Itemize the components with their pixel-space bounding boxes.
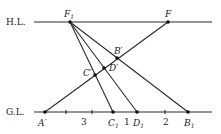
label-b-prime: B′ xyxy=(113,46,123,56)
point-c-prime xyxy=(93,73,97,77)
perspective-diagram: H.L. G.L. F1 F B′ D′ C′ A′ C1 D1 B1 3 1 … xyxy=(0,0,221,134)
label-f: F xyxy=(164,9,172,19)
point-a-prime xyxy=(43,110,47,114)
label-d1: D1 xyxy=(132,118,144,129)
point-b1 xyxy=(186,110,190,114)
label-b1: B1 xyxy=(183,118,194,129)
point-f xyxy=(166,20,170,24)
point-d1 xyxy=(135,110,139,114)
measure-label-2: 2 xyxy=(163,117,169,127)
label-d-prime: D′ xyxy=(108,63,118,73)
label-a-prime: A′ xyxy=(37,118,47,128)
point-f1 xyxy=(68,20,72,24)
label-c-prime: C′ xyxy=(83,68,92,78)
point-c1 xyxy=(111,110,115,114)
horizon-label: H.L. xyxy=(6,17,26,27)
measure-label-3: 3 xyxy=(81,117,87,127)
measure-label-1: 1 xyxy=(124,117,130,127)
point-b-prime xyxy=(115,56,119,60)
label-f1: F1 xyxy=(63,9,74,20)
point-d-prime xyxy=(102,66,106,70)
ground-label: G.L. xyxy=(6,107,25,117)
line-f1-b1 xyxy=(70,22,188,112)
label-c1: C1 xyxy=(108,118,119,129)
